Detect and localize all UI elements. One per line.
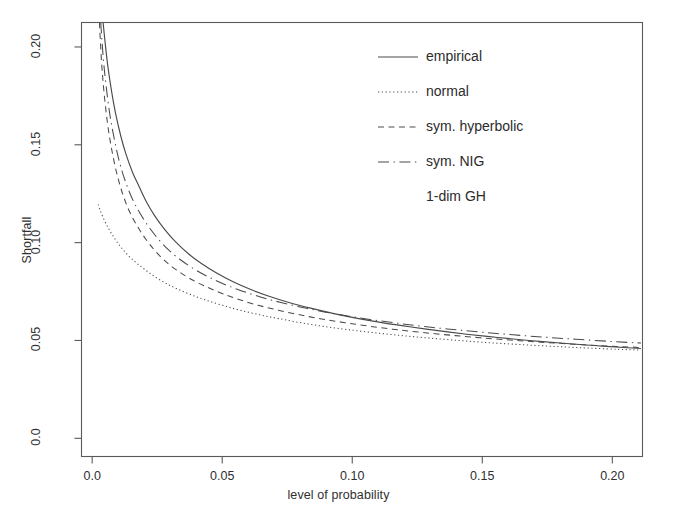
legend-label-sym-nig: sym. NIG — [426, 153, 484, 169]
y-tick-label: 0.05 — [29, 309, 43, 369]
legend-label-empirical: empirical — [426, 48, 482, 64]
axis-ticks — [75, 47, 613, 464]
legend-label-sym-hyperbolic: sym. hyperbolic — [426, 118, 523, 134]
y-tick-label: 0.0 — [29, 407, 43, 467]
x-tick-label: 0.0 — [62, 469, 122, 483]
x-tick-label: 0.20 — [582, 469, 642, 483]
y-tick-label: 0.15 — [29, 114, 43, 174]
plot-frame — [82, 23, 643, 457]
data-curves — [98, 23, 641, 351]
x-tick-label: 0.05 — [192, 469, 252, 483]
curve-normal — [98, 204, 641, 350]
y-tick-label: 0.20 — [29, 16, 43, 76]
curve-sym-hyperbolic — [99, 23, 640, 348]
legend-line-samples — [378, 57, 418, 162]
curve-empirical — [103, 23, 641, 349]
legend-label-normal: normal — [426, 83, 469, 99]
x-axis-title: level of probability — [0, 488, 677, 502]
legend-label-1-dim-gh: 1-dim GH — [426, 188, 486, 204]
curve-sym-nig — [101, 23, 641, 344]
x-tick-label: 0.15 — [452, 469, 512, 483]
plot-canvas — [0, 0, 677, 532]
shortfall-chart-figure: level of probability Shortfall 0.00.050.… — [0, 0, 677, 532]
y-tick-label: 0.10 — [29, 212, 43, 272]
x-tick-label: 0.10 — [322, 469, 382, 483]
